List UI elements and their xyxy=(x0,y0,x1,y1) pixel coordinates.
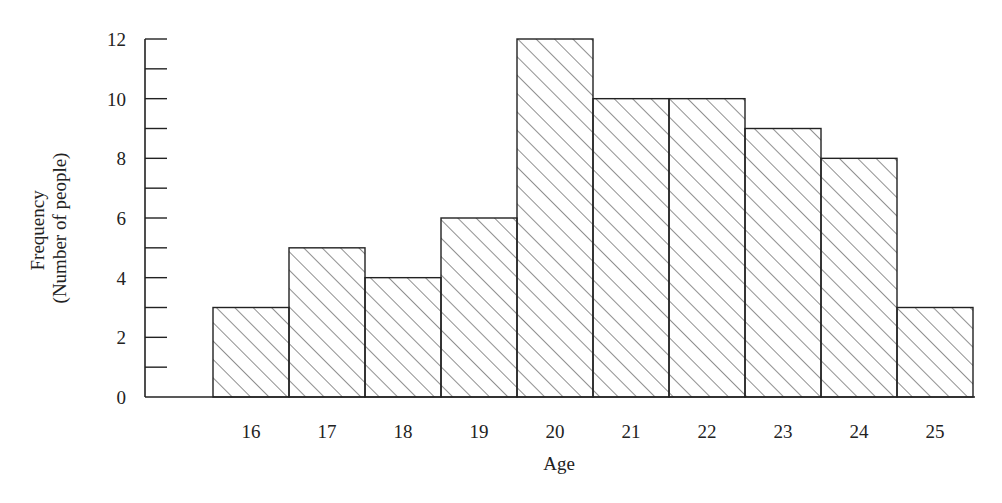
x-tick-label: 18 xyxy=(394,421,413,442)
y-tick-label: 6 xyxy=(117,208,127,229)
y-tick-label: 12 xyxy=(107,29,126,50)
bar-23 xyxy=(745,129,821,398)
bar-17 xyxy=(289,248,365,397)
bars-group xyxy=(213,39,973,397)
x-tick-label: 17 xyxy=(318,421,337,442)
x-tick-label: 19 xyxy=(470,421,489,442)
x-tick-label: 16 xyxy=(242,421,261,442)
y-tick-label: 8 xyxy=(117,148,127,169)
y-tick-label: 4 xyxy=(117,268,127,289)
y-axis-title: Frequency (Number of people) xyxy=(27,153,71,304)
bar-19 xyxy=(441,218,517,397)
bar-21 xyxy=(593,99,669,397)
x-tick-label: 25 xyxy=(926,421,945,442)
y-axis: 024681012 xyxy=(107,29,167,408)
bar-25 xyxy=(897,308,973,398)
y-tick-label: 2 xyxy=(117,327,127,348)
histogram-chart: 024681012 16171819202122232425 Age Frequ… xyxy=(0,0,1002,503)
y-axis-title-line2: (Number of people) xyxy=(49,153,71,304)
bar-20 xyxy=(517,39,593,397)
x-tick-label: 23 xyxy=(774,421,793,442)
x-tick-label: 21 xyxy=(622,421,641,442)
y-axis-title-line1: Frequency xyxy=(27,190,48,271)
y-tick-label: 0 xyxy=(117,387,127,408)
x-tick-label: 20 xyxy=(546,421,565,442)
x-axis-title: Age xyxy=(543,453,575,474)
bar-24 xyxy=(821,158,897,397)
bar-22 xyxy=(669,99,745,397)
x-tick-label: 22 xyxy=(698,421,717,442)
x-tick-label: 24 xyxy=(850,421,870,442)
bar-16 xyxy=(213,308,289,398)
x-axis: 16171819202122232425 xyxy=(145,397,975,442)
bar-18 xyxy=(365,278,441,397)
y-tick-label: 10 xyxy=(107,89,126,110)
